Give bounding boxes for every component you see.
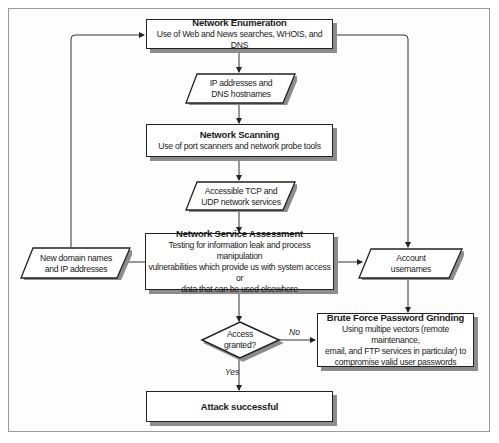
new-domains-line1: New domain names: [40, 253, 112, 264]
brute-force-box: Brute Force Password Grinding Using mult…: [317, 313, 474, 367]
brute-force-desc-line1: Using multipe vectors (remote maintenanc…: [318, 324, 473, 346]
account-usernames-line1: Account: [391, 253, 431, 264]
account-usernames-line2: usernames: [391, 264, 431, 275]
access-granted-label: Access granted?: [205, 329, 275, 351]
network-scanning-title: Network Scanning: [200, 129, 280, 141]
network-scanning-desc: Use of port scanners and network probe t…: [158, 141, 320, 152]
no-edge-label: No: [289, 327, 300, 337]
network-enumeration-title: Network Enumeration: [192, 17, 286, 29]
nsa-desc-line1: Testing for information leak and process…: [146, 240, 333, 262]
brute-force-desc-line3: compromise valid user passwords: [335, 357, 457, 368]
brute-force-desc-line2: email, and FTP services in particular) t…: [325, 346, 466, 357]
ip-dns-line1: IP addresses and: [210, 78, 273, 89]
connector-lines: [0, 0, 499, 443]
ip-dns-data-node: IP addresses and DNS hostnames: [185, 73, 297, 105]
access-granted-line1: Access: [205, 329, 275, 340]
new-domains-data-node: New domain names and IP addresses: [20, 247, 132, 280]
network-enumeration-desc: Use of Web and News searches, WHOIS, and…: [147, 29, 332, 51]
yes-edge-label: Yes: [225, 367, 239, 377]
tcp-udp-line1: Accessible TCP and: [201, 186, 280, 197]
network-scanning-box: Network Scanning Use of port scanners an…: [146, 124, 333, 157]
tcp-udp-data-node: Accessible TCP and UDP network services: [185, 181, 297, 212]
attack-successful-box: Attack successful: [146, 391, 333, 422]
ip-dns-line2: DNS hostnames: [210, 89, 273, 100]
nsa-desc-line2: vulnerabilities which provide us with sy…: [146, 262, 333, 284]
network-service-assessment-box: Network Service Assessment Testing for i…: [145, 233, 334, 290]
brute-force-title: Brute Force Password Grinding: [327, 312, 464, 324]
network-enumeration-box: Network Enumeration Use of Web and News …: [146, 19, 333, 49]
account-usernames-data-node: Account usernames: [358, 248, 464, 280]
new-domains-line2: and IP addresses: [40, 264, 112, 275]
tcp-udp-line2: UDP network services: [201, 197, 280, 208]
nsa-desc-line3: data that can be used elsewhere: [181, 284, 297, 295]
access-granted-line2: granted?: [205, 340, 275, 351]
nsa-title: Network Service Assessment: [176, 228, 303, 240]
attack-successful-title: Attack successful: [201, 401, 278, 413]
